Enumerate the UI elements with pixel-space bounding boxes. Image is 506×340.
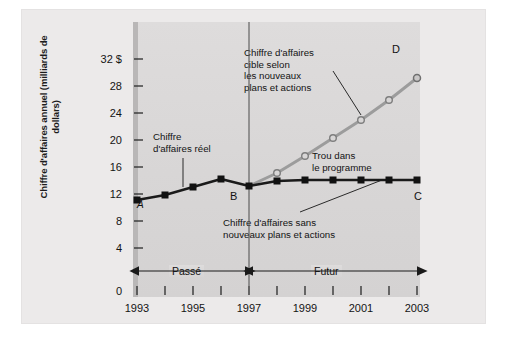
x-axis-ticks bbox=[137, 286, 417, 295]
series-line-target bbox=[249, 78, 417, 186]
chart-figure: Chiffre d'affaires annuel (milliards de … bbox=[22, 10, 485, 323]
y-axis-ticks bbox=[134, 59, 143, 248]
chart-svg bbox=[22, 10, 485, 323]
leader-target-revenue bbox=[333, 71, 361, 115]
leader-no-new-plans bbox=[300, 180, 382, 212]
